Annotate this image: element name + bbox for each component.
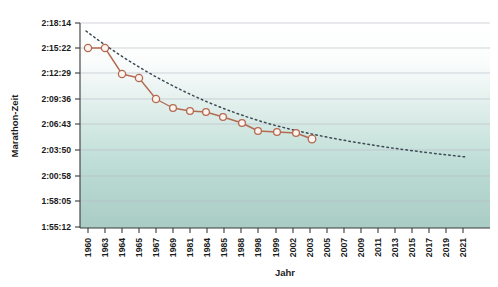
data-point-marker: [203, 109, 210, 116]
x-tick-label: 2011: [373, 238, 383, 257]
data-point-marker: [152, 95, 159, 102]
data-point-marker: [118, 70, 125, 77]
data-point-marker: [135, 74, 142, 81]
y-tick-label: 2:15:22: [41, 43, 71, 53]
x-tick-label: 1965: [134, 238, 144, 257]
data-point-marker: [255, 128, 262, 135]
x-tick-label: 1984: [202, 238, 212, 257]
x-tick-label: 1998: [253, 238, 263, 257]
x-tick-label: 1985: [219, 238, 229, 257]
x-tick-label: 2007: [339, 238, 349, 257]
x-axis-ticks: [88, 228, 463, 233]
y-tick-label: 1:55:12: [41, 222, 71, 232]
x-tick-label: 2005: [322, 238, 332, 257]
y-axis-title: Marathon-Zeit: [9, 94, 20, 158]
data-point-marker: [101, 44, 108, 51]
x-tick-label: 2013: [390, 238, 400, 257]
y-tick-label: 2:12:29: [41, 68, 71, 78]
y-tick-label: 2:00:58: [41, 171, 71, 181]
data-point-marker: [239, 120, 246, 127]
plot-area-background: [80, 23, 490, 228]
data-point-marker: [308, 135, 316, 143]
x-tick-label: 2021: [458, 238, 468, 257]
x-axis-title: Jahr: [275, 267, 295, 278]
x-tick-label: 2019: [441, 238, 451, 257]
x-tick-label: 1964: [117, 238, 127, 257]
x-tick-label: 1969: [168, 238, 178, 257]
data-point-marker: [293, 130, 300, 137]
y-axis-tick-labels: 2:18:14 2:15:22 2:12:29 2:09:36 2:06:43 …: [41, 18, 71, 232]
y-tick-label: 2:03:50: [41, 145, 71, 155]
x-tick-label: 2003: [305, 238, 315, 257]
x-tick-label: 1988: [236, 238, 246, 257]
chart-container: 2:18:14 2:15:22 2:12:29 2:09:36 2:06:43 …: [0, 0, 498, 287]
x-tick-label: 1967: [151, 238, 161, 257]
data-point-marker: [84, 44, 91, 51]
y-tick-label: 2:06:43: [41, 119, 71, 129]
x-tick-label: 1981: [185, 238, 195, 257]
x-tick-label: 1963: [100, 238, 110, 257]
y-tick-label: 1:58:05: [41, 196, 71, 206]
data-point-marker: [187, 108, 194, 115]
marathon-world-record-line-chart: 2:18:14 2:15:22 2:12:29 2:09:36 2:06:43 …: [0, 0, 498, 287]
x-tick-label: 1960: [83, 238, 93, 257]
y-axis-ticks: [75, 23, 80, 227]
y-tick-label: 2:09:36: [41, 94, 71, 104]
x-tick-label: 1999: [271, 238, 281, 257]
data-point-marker: [170, 105, 177, 112]
x-tick-label: 2015: [407, 238, 417, 257]
x-tick-label: 2002: [288, 238, 298, 257]
data-point-marker: [220, 114, 227, 121]
data-point-marker: [274, 129, 281, 136]
x-axis-tick-labels: 1960 1963 1964 1965 1967 1969 1981 1984 …: [83, 238, 468, 257]
x-tick-label: 2017: [424, 238, 434, 257]
y-tick-label: 2:18:14: [41, 18, 71, 28]
x-tick-label: 2009: [356, 238, 366, 257]
